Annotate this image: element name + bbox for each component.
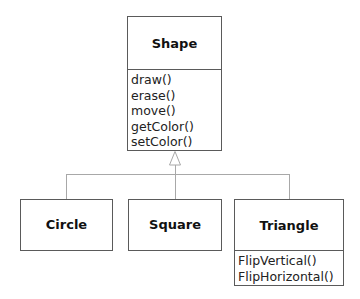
method-erase: erase() xyxy=(131,88,221,104)
class-name-triangle: Triangle xyxy=(235,200,343,250)
class-box-square[interactable]: Square xyxy=(128,199,222,251)
connector-trunk xyxy=(175,165,176,199)
method-getcolor: getColor() xyxy=(131,119,221,135)
method-move: move() xyxy=(131,103,221,119)
class-box-shape[interactable]: Shape draw() erase() move() getColor() s… xyxy=(127,16,222,151)
connector-horizontal xyxy=(66,174,290,175)
connector-triangle xyxy=(289,174,290,199)
method-flipvertical: FlipVertical() xyxy=(238,253,343,269)
connector-circle xyxy=(66,174,67,199)
class-name-circle: Circle xyxy=(21,200,112,249)
method-fliphorizontal: FlipHorizontal() xyxy=(238,269,343,285)
class-methods-shape: draw() erase() move() getColor() setColo… xyxy=(128,69,221,150)
class-box-triangle[interactable]: Triangle FlipVertical() FlipHorizontal() xyxy=(234,199,344,286)
class-name-shape: Shape xyxy=(128,17,221,69)
class-box-circle[interactable]: Circle xyxy=(20,199,113,251)
class-name-square: Square xyxy=(129,200,221,249)
method-setcolor: setColor() xyxy=(131,134,221,150)
class-methods-triangle: FlipVertical() FlipHorizontal() xyxy=(235,250,343,284)
hollow-triangle-arrow-icon xyxy=(168,151,182,166)
method-draw: draw() xyxy=(131,72,221,88)
